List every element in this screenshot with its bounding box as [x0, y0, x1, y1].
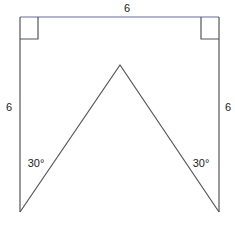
geometry-diagram: 6 6 6 30° 30° [0, 0, 235, 227]
right-angle-marker-right [201, 17, 219, 39]
left-angle-label: 30° [28, 157, 45, 169]
right-length-label: 6 [225, 101, 231, 113]
right-angle-marker-left [20, 17, 38, 39]
right-angle-label: 30° [193, 157, 210, 169]
inverted-v-lines [20, 65, 219, 212]
top-length-label: 6 [124, 2, 130, 14]
left-length-label: 6 [6, 101, 12, 113]
